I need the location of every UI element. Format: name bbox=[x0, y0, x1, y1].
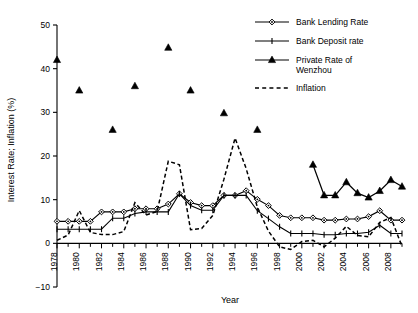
y-tick-label: 40 bbox=[41, 64, 51, 74]
x-tick-label: 2008 bbox=[383, 252, 393, 271]
data-point-marker-center bbox=[312, 217, 314, 219]
x-tick-label: 2002 bbox=[316, 252, 326, 271]
y-tick-label: −10 bbox=[36, 282, 51, 292]
y-tick-label: 10 bbox=[41, 195, 51, 205]
data-point-marker-center bbox=[345, 218, 347, 220]
x-tick-label: 2000 bbox=[294, 252, 304, 271]
x-tick-label: 1996 bbox=[249, 252, 259, 271]
data-point-marker-center bbox=[290, 217, 292, 219]
data-point-marker-center bbox=[201, 205, 203, 207]
data-point-marker-center bbox=[134, 208, 136, 210]
x-tick-label: 1986 bbox=[138, 252, 148, 271]
y-tick-label: 20 bbox=[41, 151, 51, 161]
x-tick-label: 1998 bbox=[272, 252, 282, 271]
data-point-marker-center bbox=[101, 211, 103, 213]
y-tick-label: 0 bbox=[45, 238, 50, 248]
data-point-marker-center bbox=[379, 210, 381, 212]
data-point-marker-center bbox=[334, 219, 336, 221]
x-tick-label: 1978 bbox=[49, 252, 59, 271]
data-point-marker-center bbox=[323, 219, 325, 221]
data-point-marker-center bbox=[67, 220, 69, 222]
data-point-marker-center bbox=[212, 205, 214, 207]
legend-label: Bank Lending Rate bbox=[296, 17, 369, 27]
data-point-marker-center bbox=[279, 215, 281, 217]
data-point-marker-center bbox=[78, 220, 80, 222]
data-point-marker-center bbox=[368, 216, 370, 218]
data-point-marker-center bbox=[401, 219, 403, 221]
data-point-marker-center bbox=[268, 205, 270, 207]
x-tick-label: 1994 bbox=[227, 252, 237, 271]
x-tick-label: 2006 bbox=[361, 252, 371, 271]
legend-item: Bank Lending Rate bbox=[255, 17, 369, 27]
data-point-marker-center bbox=[167, 203, 169, 205]
data-point-marker-center bbox=[256, 198, 258, 200]
x-tick-label: 1992 bbox=[205, 252, 215, 271]
data-point-marker-center bbox=[89, 220, 91, 222]
y-tick-label: 50 bbox=[41, 20, 51, 30]
data-point-marker-center bbox=[56, 220, 58, 222]
y-axis-title: Interest Rate; Inflation (%) bbox=[6, 98, 16, 203]
data-point-marker-center bbox=[245, 190, 247, 192]
data-point-marker-center bbox=[112, 211, 114, 213]
chart-container: −1001020304050 1978198019821984198619881… bbox=[0, 0, 418, 313]
x-tick-label: 2004 bbox=[338, 252, 348, 271]
x-tick-label: 1980 bbox=[71, 252, 81, 271]
y-tick-label: 30 bbox=[41, 107, 51, 117]
x-tick-label: 1988 bbox=[160, 252, 170, 271]
x-tick-label: 1990 bbox=[183, 252, 193, 271]
data-point-marker-center bbox=[301, 217, 303, 219]
legend-label: Private Rate of bbox=[296, 55, 353, 65]
legend-label: Bank Deposit rate bbox=[296, 36, 364, 46]
x-tick-label: 1982 bbox=[94, 252, 104, 271]
x-axis-title: Year bbox=[221, 295, 239, 305]
interest-rate-inflation-chart: −1001020304050 1978198019821984198619881… bbox=[0, 0, 418, 313]
legend-marker-diamond-center bbox=[271, 21, 273, 23]
data-point-marker-center bbox=[123, 211, 125, 213]
legend-label: Inflation bbox=[296, 83, 326, 93]
x-tick-label: 1984 bbox=[116, 252, 126, 271]
legend-label: Wenzhou bbox=[296, 65, 332, 75]
data-point-marker-center bbox=[357, 218, 359, 220]
